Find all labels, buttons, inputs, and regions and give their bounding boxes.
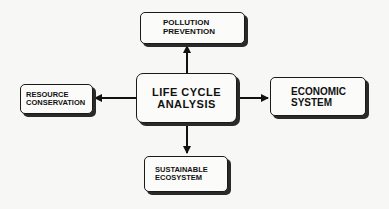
node-sustainable-ecosystem: SUSTAINABLE ECOSYSTEM: [144, 156, 228, 192]
node-label: ANALYSIS: [157, 98, 216, 110]
node-label: LIFE CYCLE: [152, 86, 221, 98]
node-resource-conservation: RESOURCE CONSERVATION: [20, 84, 93, 114]
node-pollution-prevention: POLLUTION PREVENTION: [140, 12, 245, 44]
node-label: ECOSYSTEM: [155, 174, 227, 182]
node-life-cycle-analysis: LIFE CYCLE ANALYSIS: [136, 73, 237, 123]
node-label: ECONOMIC: [291, 86, 365, 97]
node-label: CONSERVATION: [26, 99, 92, 107]
node-economic-system: ECONOMIC SYSTEM: [270, 77, 366, 116]
node-label: SYSTEM: [291, 97, 365, 108]
node-label: PREVENTION: [163, 28, 244, 37]
